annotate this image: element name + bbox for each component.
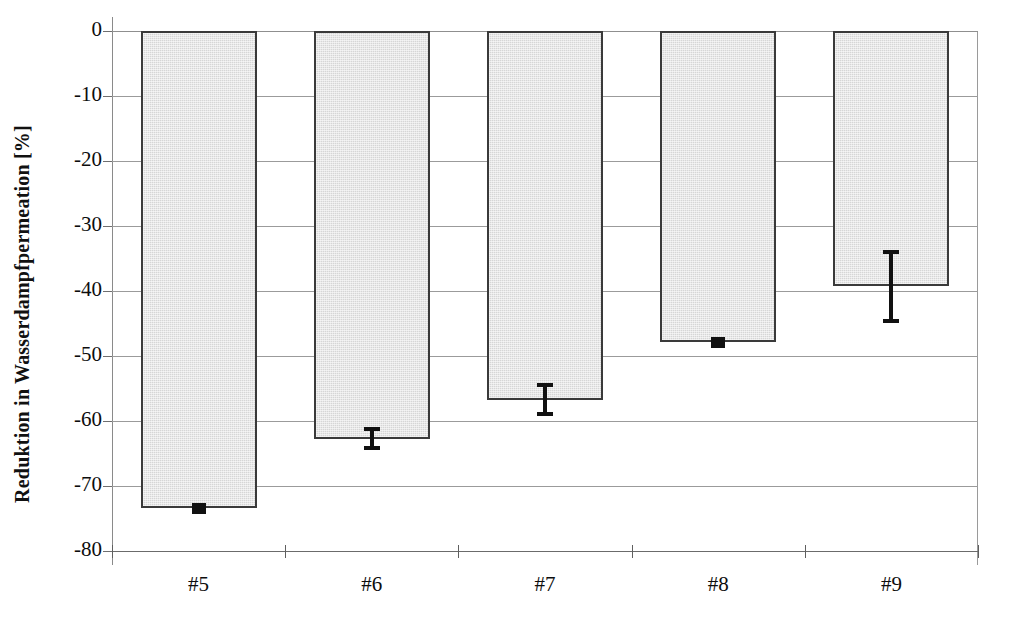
y-tick-mark xyxy=(103,96,112,97)
y-tick-label: 0 xyxy=(36,17,102,42)
y-tick-label: -30 xyxy=(36,212,102,237)
y-tick-mark xyxy=(103,486,112,487)
y-tick-mark xyxy=(103,421,112,422)
x-tick-mark xyxy=(112,545,113,558)
error-bar-cap-lower xyxy=(537,412,553,416)
error-bar-cap-upper xyxy=(364,427,380,431)
y-tick-label: -80 xyxy=(36,537,102,562)
plot-right-border xyxy=(977,31,978,565)
x-tick-label: #7 xyxy=(458,572,631,597)
y-tick-label: -60 xyxy=(36,407,102,432)
y-tick-label: -40 xyxy=(36,277,102,302)
y-tick-mark xyxy=(103,161,112,162)
bar xyxy=(487,31,603,400)
x-tick-label: #9 xyxy=(805,572,978,597)
error-bar-marker xyxy=(711,337,725,348)
y-tick-mark xyxy=(103,291,112,292)
y-tick-label: -70 xyxy=(36,472,102,497)
bar xyxy=(833,31,949,286)
x-tick-mark xyxy=(805,545,806,558)
bar xyxy=(660,31,776,342)
y-tick-label: -20 xyxy=(36,147,102,172)
error-bar-cap-upper xyxy=(883,250,899,254)
x-tick-mark xyxy=(458,545,459,558)
error-bar-cap-upper xyxy=(537,383,553,387)
error-bar-marker xyxy=(192,503,206,514)
error-bar-cap-lower xyxy=(364,446,380,450)
x-tick-mark xyxy=(285,545,286,558)
x-tick-label: #6 xyxy=(285,572,458,597)
plot-area xyxy=(112,31,978,551)
bar xyxy=(314,31,430,439)
x-axis-line xyxy=(112,551,978,552)
y-tick-mark xyxy=(103,226,112,227)
y-tick-mark xyxy=(103,551,112,552)
bar xyxy=(141,31,257,508)
error-bar-cap-lower xyxy=(883,319,899,323)
x-tick-label: #8 xyxy=(632,572,805,597)
error-bar-line xyxy=(889,250,893,323)
y-tick-label: -10 xyxy=(36,82,102,107)
chart-figure: Reduktion in Wasserdampfpermeation [%] 0… xyxy=(0,0,1015,628)
x-tick-mark-end xyxy=(978,545,979,558)
y-tick-label: -50 xyxy=(36,342,102,367)
x-tick-mark xyxy=(632,545,633,558)
x-tick-label: #5 xyxy=(112,572,285,597)
y-tick-mark xyxy=(103,31,112,32)
y-tick-mark xyxy=(103,356,112,357)
error-bar-line xyxy=(543,383,547,417)
